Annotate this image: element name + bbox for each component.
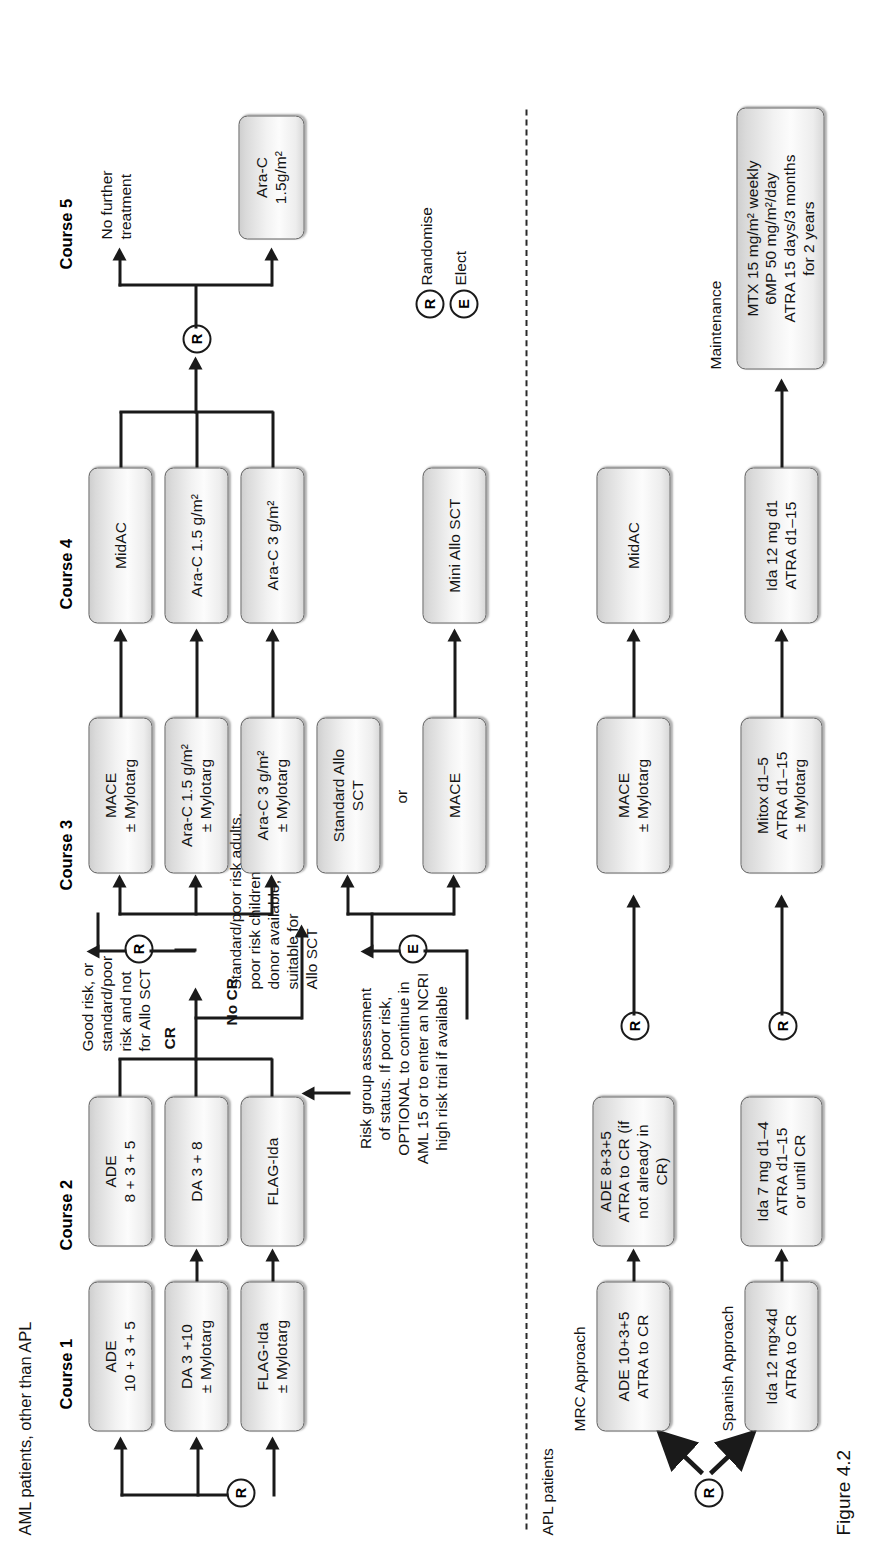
c3r-stem-up bbox=[96, 949, 126, 952]
c5-arrow-bot bbox=[264, 247, 278, 260]
c3-c4-arrow-4 bbox=[447, 628, 461, 641]
apl-sp-c1-c2-line bbox=[780, 1259, 783, 1281]
apl-sp-c3-c4-arrow bbox=[774, 628, 788, 641]
box-apl-spanish-course2[interactable]: Ida 7 mg d1–4 ATRA d1–15 or until CR bbox=[740, 1096, 822, 1246]
risk-note-arrow bbox=[301, 1086, 314, 1100]
c2-collector-h2 bbox=[194, 1058, 197, 1096]
elect-stem-down bbox=[423, 949, 467, 952]
box-arac-1-5-mylotarg[interactable]: Ara-C 1.5 g/m² ± Mylotarg bbox=[164, 717, 228, 873]
c3-feed-arrow-1 bbox=[112, 874, 126, 887]
figure-frame: AML patients, other than APL Course 1 Co… bbox=[0, 0, 882, 1549]
apl-sp-r-arrow bbox=[774, 894, 788, 907]
box-mini-allo-sct[interactable]: Mini Allo SCT bbox=[422, 467, 486, 623]
elect-stem-up bbox=[370, 949, 400, 952]
legend-elect-label: Elect bbox=[451, 251, 470, 285]
flowchart-canvas: AML patients, other than APL Course 1 Co… bbox=[0, 0, 882, 1549]
apl-mrc-r-line bbox=[632, 905, 635, 1015]
c1-c2-arrow-3 bbox=[265, 1248, 279, 1261]
box-da-3-10-mylotarg[interactable]: DA 3 +10 ± Mylotarg bbox=[164, 1281, 228, 1431]
box-arac-3[interactable]: Ara-C 3 g/m² bbox=[240, 467, 304, 623]
box-apl-mrc-course4[interactable]: MidAC bbox=[596, 467, 670, 623]
box-apl-maintenance[interactable]: MTX 15 mg/m² weekly 6MP 50 mg/m²/day ATR… bbox=[736, 107, 824, 369]
box-mace[interactable]: MACE bbox=[422, 717, 486, 873]
legend-randomise-label: Randomise bbox=[417, 207, 436, 285]
box-ade-8-3-5[interactable]: ADE 8 + 3 + 5 bbox=[88, 1096, 152, 1246]
box-arac-3-mylotarg[interactable]: Ara-C 3 g/m² ± Mylotarg bbox=[240, 717, 304, 873]
box-arac-1-5gm2[interactable]: Ara-C 1.5g/m² bbox=[238, 115, 304, 239]
course-header-5: Course 5 bbox=[56, 198, 75, 269]
c4-collect-2 bbox=[195, 411, 198, 467]
aml-entry-arrow-3 bbox=[265, 1436, 279, 1449]
box-apl-spanish-course1[interactable]: Ida 12 mg×4d ATRA to CR bbox=[744, 1281, 818, 1431]
box-midac[interactable]: MidAC bbox=[88, 467, 152, 623]
c3-feed-arrow-2 bbox=[188, 874, 202, 887]
box-ade-10-3-5[interactable]: ADE 10 + 3 + 5 bbox=[88, 1281, 152, 1431]
apl-sp-r-line bbox=[780, 905, 783, 1015]
elect-feed-from-nocr bbox=[465, 949, 468, 1019]
figure-caption: Figure 4.2 bbox=[832, 1449, 854, 1535]
c4-collect-1 bbox=[119, 411, 122, 467]
c3-feed-3 bbox=[270, 885, 273, 915]
apl-mrc-r-arrow bbox=[626, 894, 640, 907]
cr-label: CR bbox=[160, 1027, 179, 1049]
apl-mrc-c1-c2-line bbox=[632, 1259, 635, 1281]
aml-entry-arrow-1 bbox=[113, 1436, 127, 1449]
c5-branch-top bbox=[118, 258, 121, 286]
no-further-treatment-label: No further treatment bbox=[97, 79, 135, 239]
nocr-vline bbox=[194, 1016, 302, 1019]
elect-distributor-h bbox=[370, 912, 373, 952]
aml-entry-hline-mid bbox=[196, 1448, 199, 1496]
maintenance-label: Maintenance bbox=[706, 280, 725, 369]
box-apl-mrc-course2[interactable]: ADE 8+3+5 ATRA to CR (if not already in … bbox=[592, 1096, 674, 1246]
mrc-approach-label: MRC Approach bbox=[570, 1326, 589, 1431]
box-mace-mylotarg[interactable]: MACE ± Mylotarg bbox=[88, 717, 152, 873]
box-da-3-8[interactable]: DA 3 + 8 bbox=[164, 1096, 228, 1246]
course3-randomise-node[interactable]: R bbox=[124, 934, 153, 963]
c5-branch-bot bbox=[270, 258, 273, 286]
c1-c2-line-2 bbox=[195, 1259, 198, 1281]
cr-line bbox=[194, 998, 197, 1060]
apl-maint-arrow bbox=[774, 378, 788, 391]
apl-mrc-c3-c4-arrow bbox=[626, 628, 640, 641]
box-flag-ida-mylotarg[interactable]: FLAG-Ida ± Mylotarg bbox=[240, 1281, 304, 1431]
c5-split-h bbox=[194, 284, 197, 328]
c5-arrow-top bbox=[112, 247, 126, 260]
aml-entry-hline-top bbox=[120, 1448, 123, 1496]
box-flag-ida[interactable]: FLAG-Ida bbox=[240, 1096, 304, 1246]
aml-apl-divider bbox=[525, 109, 527, 1529]
apl-sp-c1-c2-arrow bbox=[774, 1248, 788, 1261]
c3r-stem-down bbox=[149, 949, 195, 952]
allo-elect-node[interactable]: E bbox=[398, 934, 427, 963]
c2-collector-h1 bbox=[118, 1058, 121, 1096]
c3-c4-arrow-2 bbox=[189, 628, 203, 641]
c4-to-r-line bbox=[194, 367, 197, 413]
legend-randomise-node: R bbox=[415, 289, 444, 318]
elect-distributor-v bbox=[346, 912, 454, 915]
course-header-2: Course 2 bbox=[56, 1179, 75, 1250]
c3-feed-2 bbox=[194, 885, 197, 915]
apl-sp-c3-c4-line bbox=[780, 639, 783, 717]
c1-c2-arrow-2 bbox=[189, 1248, 203, 1261]
box-apl-spanish-course3[interactable]: Mitox d1–5 ATRA d1–15 ± Mylotarg bbox=[740, 717, 822, 873]
or-label: or bbox=[392, 789, 411, 803]
box-standard-allo-sct[interactable]: Standard Allo SCT bbox=[316, 717, 380, 873]
apl-mrc-c1-c2-arrow bbox=[626, 1248, 640, 1261]
box-apl-spanish-course4[interactable]: Ida 12 mg d1 ATRA d1–15 bbox=[744, 467, 818, 623]
c5-split-v bbox=[118, 283, 272, 286]
aml-entry-vline bbox=[120, 1493, 228, 1496]
elect-feed-2 bbox=[452, 885, 455, 915]
aml-entry-randomise-node[interactable]: R bbox=[226, 1478, 255, 1507]
box-apl-mrc-course1[interactable]: ADE 10+3+5 ATRA to CR bbox=[596, 1281, 670, 1431]
c3-c4-arrow-3 bbox=[265, 628, 279, 641]
course-header-1: Course 1 bbox=[56, 1338, 75, 1409]
box-apl-mrc-course3[interactable]: MACE ± Mylotarg bbox=[596, 717, 670, 873]
box-arac-1-5[interactable]: Ara-C 1.5 g/m² bbox=[164, 467, 228, 623]
c3-c4-arrow-1 bbox=[113, 628, 127, 641]
aml-entry-arrow-2 bbox=[189, 1436, 203, 1449]
aml-section-label: AML patients, other than APL bbox=[14, 1321, 34, 1535]
risk-note-vline bbox=[312, 1091, 350, 1094]
cr-arrow bbox=[188, 987, 202, 1000]
elect-feed-arrow-1 bbox=[340, 874, 354, 887]
apl-maint-line bbox=[780, 389, 783, 467]
c2-collector-h3 bbox=[270, 1058, 273, 1096]
